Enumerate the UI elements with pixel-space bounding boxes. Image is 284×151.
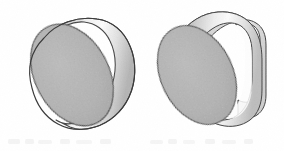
paper-grain-overlay (0, 0, 284, 151)
figure-canvas (0, 0, 284, 151)
